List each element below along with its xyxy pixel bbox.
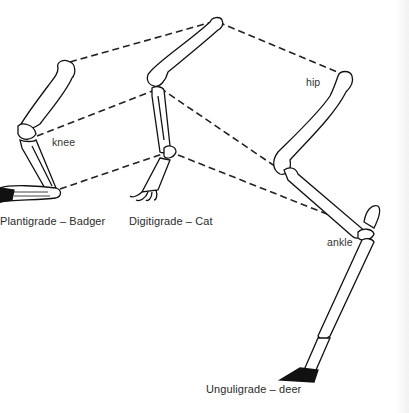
connector-hip-cat-deer [218,22,342,74]
deer-leg-illustration [274,72,380,383]
badger-leg-illustration [0,60,75,202]
cat-metatarsals [142,158,170,192]
deer-hoof [280,368,318,382]
deer-phalanges [304,338,330,370]
deer-tibia [284,168,366,238]
cat-ankle-joint [164,146,176,158]
hip-label: hip [306,76,320,88]
page-edge-shadow [395,0,409,413]
leg-comparison-diagram [0,0,409,413]
caption-cat: Digitigrade – Cat [129,215,213,227]
cat-leg-illustration [130,18,223,201]
cat-femur [147,18,222,87]
connector-knee-cat-deer [160,88,282,171]
deer-calcaneus [364,206,380,228]
knee-label: knee [52,136,75,148]
ankle-label: ankle [327,236,353,248]
caption-badger: Plantigrade – Badger [0,215,105,227]
badger-femur [20,60,75,129]
badger-claws [0,188,14,202]
caption-deer: Unguligrade – deer [206,383,301,395]
deer-cannon-bone [318,239,374,339]
